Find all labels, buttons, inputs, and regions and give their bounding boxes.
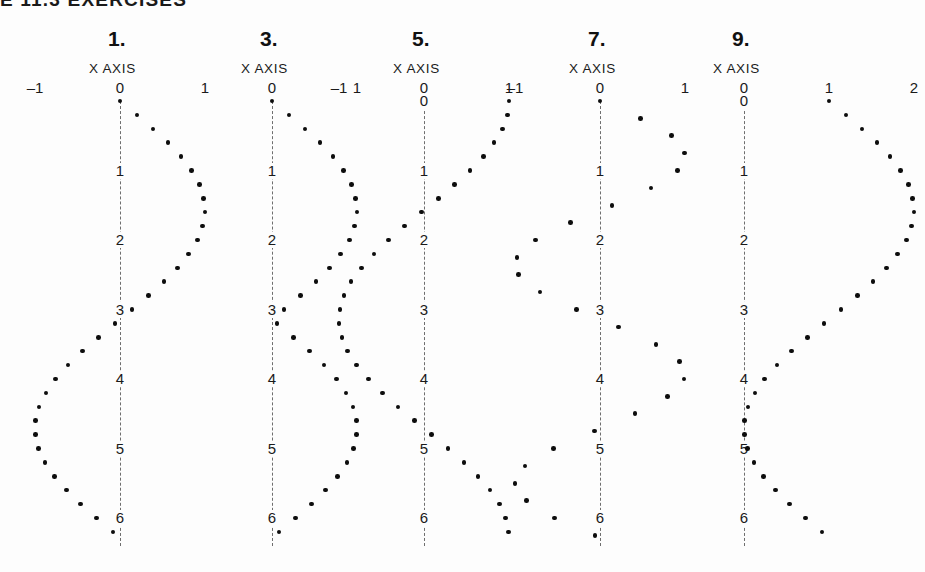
data-point (33, 418, 38, 423)
data-point (386, 238, 391, 243)
data-point (895, 252, 900, 257)
data-point (538, 290, 543, 295)
y-tick-label: 5 (591, 441, 609, 457)
data-point (775, 363, 780, 368)
data-point (189, 168, 194, 173)
data-point (481, 154, 486, 159)
data-point (515, 255, 520, 260)
y-tick-label: 0 (735, 93, 753, 109)
data-point (342, 293, 347, 298)
data-point (349, 279, 354, 284)
data-point (270, 99, 275, 104)
data-point (682, 377, 687, 382)
y-tick-label: 6 (735, 510, 753, 526)
x-tick-label: –1 (319, 79, 359, 96)
data-point (789, 349, 794, 354)
data-point (355, 210, 360, 215)
y-tick-label: 5 (263, 441, 281, 457)
data-point (855, 293, 860, 298)
data-point (64, 488, 69, 493)
x-tick-label: 1 (809, 79, 849, 96)
data-point (135, 113, 140, 118)
data-point (396, 405, 401, 410)
data-point (113, 321, 118, 326)
data-point (803, 516, 808, 521)
data-point (516, 272, 521, 277)
data-point (203, 210, 208, 215)
data-point (533, 238, 538, 243)
data-point (345, 349, 350, 354)
data-point (303, 127, 308, 132)
data-point (351, 446, 356, 451)
y-tick-label: 0 (415, 93, 433, 109)
data-point (839, 307, 844, 312)
data-point (742, 418, 747, 423)
data-point (130, 307, 135, 312)
data-point (380, 391, 385, 396)
data-point (331, 154, 336, 159)
x-tick-label: 0 (100, 79, 140, 96)
data-point (593, 533, 598, 538)
data-point (762, 377, 767, 382)
y-tick-label: 3 (735, 302, 753, 318)
data-point (287, 113, 292, 118)
y-tick-label: 2 (111, 232, 129, 248)
plot-title: 1. (108, 27, 126, 51)
data-point (592, 429, 597, 434)
data-point (282, 307, 287, 312)
data-point (372, 252, 377, 257)
data-point (338, 307, 343, 312)
y-tick-label: 6 (415, 510, 433, 526)
data-point (340, 335, 345, 340)
data-point (354, 363, 359, 368)
y-tick-label: 4 (735, 371, 753, 387)
y-tick-label: 2 (735, 232, 753, 248)
data-point (327, 266, 332, 271)
data-point (827, 99, 832, 104)
data-point (675, 168, 680, 173)
data-point (354, 432, 359, 437)
y-tick-label: 3 (415, 302, 433, 318)
data-point (677, 359, 682, 364)
data-point (33, 432, 38, 437)
data-point (649, 186, 654, 191)
x-tick-label: 0 (580, 79, 620, 96)
data-point (309, 502, 314, 507)
data-point (616, 325, 621, 330)
y-tick-label: 5 (415, 441, 433, 457)
data-point (96, 335, 101, 340)
data-point (179, 154, 184, 159)
data-point (912, 210, 917, 215)
y-tick-label: 4 (415, 371, 433, 387)
data-point (111, 530, 116, 535)
data-point (118, 99, 123, 104)
y-tick-label: 3 (111, 302, 129, 318)
x-axis-caption: X AXIS (89, 61, 136, 76)
data-point (275, 321, 280, 326)
y-tick-label: 3 (263, 302, 281, 318)
data-point (742, 432, 747, 437)
data-point (151, 127, 156, 132)
data-point (505, 113, 510, 118)
y-tick-label: 3 (591, 302, 609, 318)
data-point (338, 252, 343, 257)
data-point (314, 279, 319, 284)
data-point (503, 516, 508, 521)
data-point (44, 391, 49, 396)
data-point (412, 418, 417, 423)
data-point (200, 224, 205, 229)
data-point (476, 474, 481, 479)
data-point (351, 405, 356, 410)
y-tick-label: 5 (111, 441, 129, 457)
data-point (745, 446, 750, 451)
data-point (354, 418, 359, 423)
data-point (884, 266, 889, 271)
x-tick-label: 2 (894, 79, 925, 96)
data-point (43, 460, 48, 465)
data-point (574, 307, 579, 312)
y-tick-label: 4 (263, 371, 281, 387)
data-point (468, 168, 473, 173)
data-point (492, 140, 497, 145)
data-point (506, 530, 511, 535)
plot-title: 9. (732, 27, 750, 51)
